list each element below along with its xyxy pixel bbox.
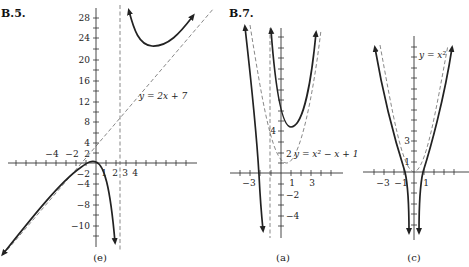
x-label-neg3: −3 (376, 178, 390, 188)
oblique-asymptote (3, 8, 214, 255)
asymptote-label-a: y = x² − x + 1 (293, 149, 358, 159)
figure-canvas: B.5. B.7. (0, 0, 469, 267)
caption-a: (a) (276, 252, 290, 263)
y-label-neg2: −2 (286, 190, 299, 200)
x-label-neg4: −4 (45, 149, 59, 159)
graph-e: 28 24 20 16 12 8 4 2 −2 −4 −8 −10 −4 −2 … (3, 5, 214, 263)
y-label-neg4: −4 (77, 179, 91, 189)
y-label-8: 8 (84, 117, 90, 127)
parabola-asymptote (250, 25, 321, 163)
caption-e: (e) (93, 252, 107, 263)
graph-c: 3 1 −3 −1 1 y = x² (c) (363, 36, 469, 263)
curve-left-branch (245, 27, 263, 230)
y-label-20: 20 (79, 55, 91, 65)
caption-c: (c) (407, 252, 421, 263)
curve-right-branch (271, 30, 316, 127)
y-label-neg10: −10 (71, 221, 90, 231)
curve-lower-branch (3, 161, 115, 254)
y-label-neg2: −2 (77, 169, 90, 179)
y-label-1: 1 (404, 157, 410, 167)
y-label-3: 3 (404, 136, 410, 146)
x-label-2: 2 (112, 168, 118, 178)
graph-a: 4 2 −2 −4 −3 1 3 y = x² − x + 1 (a) (230, 25, 358, 263)
y-label-16: 16 (79, 76, 91, 86)
x-label-3: 3 (309, 178, 315, 188)
y-label-4: 4 (270, 126, 276, 136)
heading-b7: B.7. (229, 7, 254, 20)
asymptote-label-e: y = 2x + 7 (138, 91, 187, 101)
x-label-3: 3 (122, 168, 128, 178)
curve-upper-branch (129, 11, 193, 46)
y-label-neg8: −8 (77, 200, 91, 210)
x-label-1: 1 (289, 178, 295, 188)
y-label-2: 2 (286, 149, 292, 159)
y-label-12: 12 (79, 97, 90, 107)
x-label-1: 1 (423, 178, 429, 188)
x-label-4: 4 (132, 168, 138, 178)
y-label-4: 4 (84, 138, 90, 148)
heading-b5: B.5. (1, 7, 26, 20)
y-label-24: 24 (79, 33, 91, 43)
asymptote-label-c: y = x² (418, 50, 446, 60)
y-label-neg4: −4 (286, 211, 300, 221)
y-label-28: 28 (79, 13, 91, 23)
curve-right-branch (419, 48, 452, 232)
x-label-neg2: −2 (65, 149, 78, 159)
x-label-neg3: −3 (242, 178, 256, 188)
